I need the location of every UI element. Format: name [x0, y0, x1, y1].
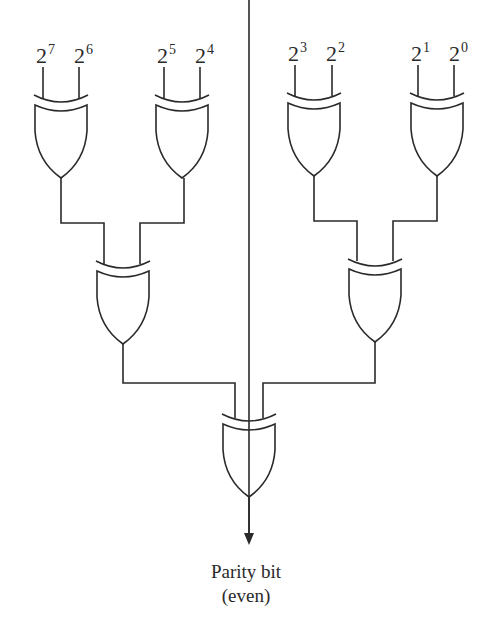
xor-gate-l2-1 [96, 261, 150, 344]
input-label-2-1: 21 [411, 43, 430, 65]
xor-gate-l2-2 [348, 259, 402, 342]
input-label-2-5: 25 [157, 45, 176, 67]
input-label-2-4: 24 [195, 45, 214, 67]
xor-gate-l1-3 [287, 93, 341, 176]
input-label-2-0: 20 [449, 43, 468, 65]
output-label-line1: Parity bit [146, 560, 346, 584]
xor-gate-l1-1 [34, 95, 88, 178]
input-label-2-6: 26 [74, 45, 93, 67]
output-arrow-icon [244, 533, 254, 545]
xor-gate-l1-2 [155, 95, 209, 178]
input-label-2-7: 27 [36, 45, 55, 67]
input-label-2-2: 22 [326, 43, 345, 65]
output-label-line2: (even) [146, 584, 346, 608]
xor-gate-l1-4 [410, 93, 464, 176]
output-label: Parity bit (even) [146, 560, 346, 608]
input-label-2-3: 23 [288, 43, 307, 65]
wires [43, 0, 454, 538]
xor-tree-diagram [0, 0, 492, 632]
